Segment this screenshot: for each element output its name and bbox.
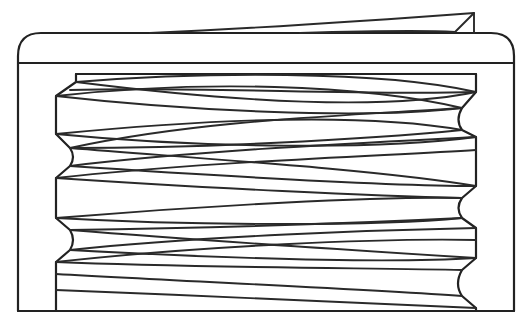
helical-thread-lines — [56, 75, 476, 308]
tamper-tab — [150, 13, 474, 33]
diagram-canvas — [0, 0, 526, 324]
cap-diagram — [0, 0, 526, 324]
